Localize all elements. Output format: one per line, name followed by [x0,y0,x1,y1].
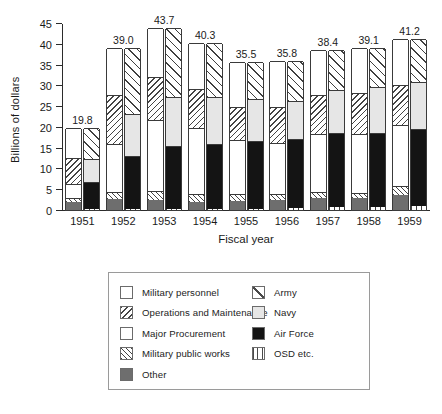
legend-item-appropriation-0: Military personnel [120,282,268,303]
bar-by-appropriation [147,29,164,211]
bar-total-label: 35.8 [277,47,297,59]
bar-segment [148,28,163,77]
x-axis-tick-label: 1951 [70,215,94,227]
y-axis-tick: 25 [56,106,62,107]
legend-swatch-icon [120,327,133,340]
bar-by-appropriation [351,49,368,211]
bar-segment [393,186,408,195]
bar-segment [230,107,245,139]
bar-segment [125,209,140,210]
legend-swatch-icon [120,347,133,360]
x-axis-tick-label: 1957 [316,215,340,227]
bar-segment [270,107,285,143]
chart-area: Billions of dollars 051015202530354045 1… [0,0,442,258]
bar-segment [393,85,408,125]
bar-total-label: 39.0 [113,34,133,46]
bar-segment [166,146,181,209]
legend-label: Operations and Maintenance [142,307,268,318]
bar-total-label: 38.4 [318,36,338,48]
legend-label: Major Procurement [142,328,225,339]
bar-segment [66,202,81,210]
x-axis-tick-label: 1959 [397,215,421,227]
bar-segment [411,206,426,210]
bar-by-service [165,29,182,211]
bar-segment [230,194,245,201]
bar-segment [311,198,326,210]
bar-segment [270,200,285,210]
bar-by-appropriation [65,129,82,211]
bar-segment [311,134,326,192]
bar-group-1957: 38.41957 [310,24,345,211]
bar-segment [352,48,367,94]
y-axis-tick: 20 [56,127,62,128]
y-axis-tick: 40 [56,44,62,45]
legend-item-appropriation-2: Major Procurement [120,323,268,344]
y-axis-tick-label: 30 [40,80,52,92]
bar-by-appropriation [392,40,409,211]
legend-column-service: ArmyNavyAir ForceOSD etc. [252,282,314,364]
bar-segment [107,192,122,199]
bar-by-service [83,129,100,211]
legend-box: Military personnelOperations and Mainten… [108,272,370,390]
x-axis-tick-label: 1955 [234,215,258,227]
y-axis-tick-label: 10 [40,163,52,175]
bar-segment [84,159,99,182]
bar-by-service [247,63,264,211]
bar-segment [230,201,245,210]
legend-label: OSD etc. [274,348,314,359]
bar-by-appropriation [269,62,286,211]
y-axis-tick: 45 [56,23,62,24]
legend-item-appropriation-4: Other [120,364,268,385]
bar-segment [230,62,245,107]
bar-by-appropriation [310,51,327,211]
bar-segment [311,192,326,198]
bar-total-label: 41.2 [399,25,419,37]
y-axis-tick-label: 5 [46,184,52,196]
bar-segment [248,141,263,209]
bar-by-service [124,49,141,211]
bar-by-appropriation [188,44,205,211]
x-axis-tick-label: 1953 [152,215,176,227]
bar-total-label: 40.3 [195,29,215,41]
bar-group-1959: 41.21959 [392,24,427,211]
bar-segment [148,77,163,120]
bar-segment [393,195,408,210]
bar-segment [166,209,181,210]
legend-item-service-1: Navy [252,303,314,324]
bar-segment [107,95,122,144]
bar-segment [352,134,367,193]
bar-group-1956: 35.81956 [269,24,304,211]
bar-segment [207,43,222,97]
y-axis-tick: 15 [56,148,62,149]
bar-segment [66,158,81,185]
legend-label: Navy [274,307,296,318]
bar-by-appropriation [229,63,246,211]
x-axis-tick-label: 1956 [275,215,299,227]
bar-segment [411,82,426,129]
legend-label: Army [274,287,297,298]
legend-swatch-icon [120,306,133,319]
legend-swatch-icon [252,306,265,319]
bar-group-1958: 39.11958 [351,24,386,211]
legend-swatch-icon [252,327,265,340]
bar-segment [370,207,385,210]
x-axis-label: Fiscal year [62,233,430,245]
bar-segment [107,199,122,210]
bar-segment [270,194,285,201]
legend-item-appropriation-3: Military public works [120,344,268,365]
bar-segment [288,61,303,100]
bar-segment [148,200,163,210]
bar-segment [370,48,385,87]
bar-group-1953: 43.71953 [147,24,182,211]
bar-group-1951: 19.81951 [65,24,100,211]
bar-segment [311,50,326,95]
legend-label: Military personnel [142,287,219,298]
bar-segment [311,95,326,134]
bar-segment [107,144,122,192]
bar-segment [189,194,204,201]
bar-segment [329,207,344,210]
bar-segment [189,89,204,128]
legend-column-appropriation: Military personnelOperations and Mainten… [120,282,268,385]
bar-segment [66,198,81,202]
bar-segment [189,128,204,194]
